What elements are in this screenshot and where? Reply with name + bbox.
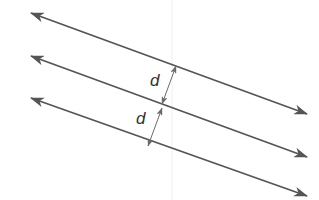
parallel-lines <box>31 13 307 196</box>
parallel-line-3 <box>31 98 307 196</box>
distance-arrow-1 <box>162 66 176 104</box>
distance-label-1: d <box>150 72 159 89</box>
distance-label-2: d <box>136 110 145 127</box>
parallel-lines-diagram <box>0 0 319 200</box>
parallel-line-2 <box>31 56 307 157</box>
distance-arrow-2 <box>148 108 162 146</box>
parallel-line-1 <box>31 13 307 114</box>
